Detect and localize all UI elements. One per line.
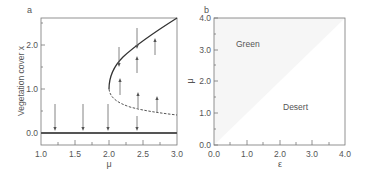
panel-b-ytick-4: 4.0 [199,13,211,23]
desert-region-label: Desert [283,102,309,112]
panel-b-xtick-1: 1.0 [241,149,253,159]
panel-a: a 0.0 1.0 2.0 1.0 1.5 2.0 2.5 3.0 [16,5,183,169]
panel-b-ytick-2: 2.0 [199,76,211,86]
panel-a-ytick-1: 1.0 [26,84,38,94]
green-region-label: Green [236,39,260,49]
panel-b-xtick-4: 4.0 [339,149,351,159]
panel-b-xtick-3: 3.0 [306,149,318,159]
panel-b: b 0.0 1.0 2.0 3.0 4.0 [185,5,351,169]
panel-a-ytick-0: 0.0 [26,128,38,138]
panel-a-xtick-1: 1.5 [69,149,81,159]
green-region [214,18,345,145]
panel-a-xtick-2: 2.0 [103,149,115,159]
panel-b-ytick-1: 1.0 [199,108,211,118]
panel-b-xlabel: ε [278,159,282,169]
panel-a-xtick-4: 3.0 [171,149,183,159]
panel-a-xtick-3: 2.5 [137,149,149,159]
figure: a 0.0 1.0 2.0 1.0 1.5 2.0 2.5 3.0 [0,0,365,174]
panel-a-label: a [27,5,32,15]
panel-a-ylabel: Vegetation cover x [16,45,26,116]
panel-b-ylabel: μ [185,78,195,83]
flow-arrows [55,28,157,129]
unstable-branch [109,89,177,115]
panel-a-xlabel: μ [106,159,111,169]
panel-a-ytick-2: 2.0 [26,40,38,50]
panel-b-xtick-0: 0.0 [208,149,220,159]
panel-b-xticks [230,140,329,145]
panel-a-xtick-0: 1.0 [35,149,47,159]
panel-a-xticks [58,140,160,145]
panel-b-xtick-2: 2.0 [274,149,286,159]
panel-a-yticks [41,23,45,133]
panel-b-ytick-3: 3.0 [199,45,211,55]
